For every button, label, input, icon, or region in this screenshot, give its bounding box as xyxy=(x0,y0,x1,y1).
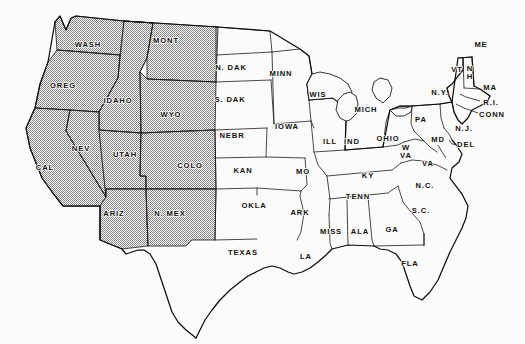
state-label-nc: N.C. xyxy=(416,181,435,190)
state-label-nebr: NEBR xyxy=(219,131,244,140)
state-label-mont: MONT xyxy=(153,36,179,45)
state-label-ark: ARK xyxy=(290,208,309,217)
state-label-conn: CONN xyxy=(479,110,505,119)
state-shape-ariz xyxy=(100,189,148,249)
state-label-iowa: IOWA xyxy=(275,122,299,131)
state-label-pa: PA xyxy=(415,115,427,124)
state-label-nh: NH xyxy=(467,64,473,81)
state-label-ind: IND xyxy=(344,137,360,146)
state-label-ky: KY xyxy=(362,171,374,180)
state-label-tenn: TENN xyxy=(346,192,370,201)
state-shape-utah xyxy=(99,130,146,197)
leader-line-md xyxy=(438,145,446,158)
state-label-wis: WIS xyxy=(309,90,326,99)
state-shape-colo xyxy=(140,130,216,189)
state-label-mo: MO xyxy=(296,167,310,176)
state-label-cal: CAL xyxy=(36,163,54,172)
map-graphic: WASHOREGCALIDAHONEVUTAHARIZMONTWYOCOLON.… xyxy=(0,0,525,344)
state-label-utah: UTAH xyxy=(113,150,137,159)
state-label-ga: GA xyxy=(385,225,398,234)
state-label-wyo: WYO xyxy=(161,110,182,119)
state-label-sc: S.C. xyxy=(412,206,430,215)
state-label-ohio: OHIO xyxy=(376,134,399,143)
state-label-miss: MISS xyxy=(320,227,342,236)
state-label-minn: MINN xyxy=(269,69,292,78)
state-shape-wash xyxy=(55,16,124,55)
state-label-va: VA xyxy=(422,159,434,168)
state-label-idaho: IDAHO xyxy=(104,96,133,105)
state-label-ndak: N. DAK xyxy=(215,63,247,72)
state-label-ala: ALA xyxy=(351,227,369,236)
state-label-kan: KAN xyxy=(233,166,252,175)
state-label-nmex: N. MEX xyxy=(154,209,186,218)
state-label-la: LA xyxy=(300,252,312,261)
state-label-oreg: OREG xyxy=(50,81,76,90)
state-label-md: MD xyxy=(431,135,445,144)
state-label-ma: MA xyxy=(483,83,497,92)
leader-line-ri xyxy=(460,94,480,101)
state-label-okla: OKLA xyxy=(241,201,266,210)
state-label-sdak: S. DAK xyxy=(214,95,245,104)
us-state-map: WASHOREGCALIDAHONEVUTAHARIZMONTWYOCOLON.… xyxy=(0,0,525,344)
state-label-nev: NEV xyxy=(72,144,90,153)
state-label-ariz: ARIZ xyxy=(103,209,124,218)
state-label-nj: N.J. xyxy=(455,124,473,133)
state-label-mich: MICH xyxy=(354,105,377,114)
state-label-texas: TEXAS xyxy=(228,248,258,257)
state-label-vt: VT xyxy=(451,65,463,74)
state-label-ny: N.Y. xyxy=(431,88,449,97)
state-label-del: DEL xyxy=(457,140,475,149)
state-label-me: ME xyxy=(474,40,487,49)
state-label-wash: WASH xyxy=(75,40,101,49)
state-label-ri: R.I. xyxy=(483,98,498,107)
state-label-colo: COLO xyxy=(177,161,203,170)
state-label-fla: FLA xyxy=(401,259,418,268)
state-label-wva: WVA xyxy=(400,143,412,160)
state-label-ill: ILL xyxy=(323,137,337,146)
